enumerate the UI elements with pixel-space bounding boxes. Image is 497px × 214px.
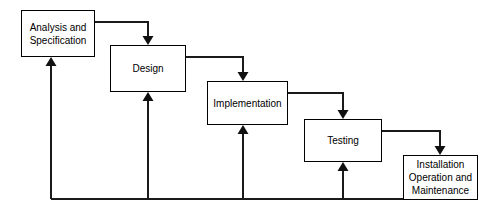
arrowhead-implementation-to-testing	[338, 110, 349, 119]
phase-box-implementation[interactable]: Implementation	[207, 81, 288, 125]
connector-analysis-to-design	[95, 22, 148, 37]
phase-label-implementation: Implementation	[211, 97, 283, 110]
arrowhead-feedback-to-implementation	[238, 125, 249, 134]
arrowhead-design-to-implementation	[238, 72, 249, 81]
waterfall-model-diagram: Analysis and SpecificationDesignImplemen…	[0, 0, 497, 214]
phase-box-installation[interactable]: Installation Operation and Maintenance	[403, 155, 478, 200]
connector-implementation-to-testing	[288, 93, 343, 111]
phase-label-design: Design	[130, 62, 165, 75]
arrowhead-feedback-to-analysis	[46, 57, 57, 66]
phase-box-design[interactable]: Design	[110, 45, 186, 92]
phase-label-analysis: Analysis and Specification	[28, 21, 89, 47]
arrowhead-testing-to-installation	[435, 146, 446, 155]
arrowhead-analysis-to-design	[143, 36, 154, 45]
connector-testing-to-installation	[382, 131, 440, 147]
arrowhead-feedback-to-design	[143, 92, 154, 101]
phase-box-analysis[interactable]: Analysis and Specification	[21, 10, 95, 57]
arrowhead-feedback-to-testing	[338, 162, 349, 171]
phase-label-testing: Testing	[325, 134, 361, 147]
connector-design-to-implementation	[186, 57, 243, 73]
phase-box-testing[interactable]: Testing	[304, 119, 382, 162]
phase-label-installation: Installation Operation and Maintenance	[407, 158, 474, 197]
